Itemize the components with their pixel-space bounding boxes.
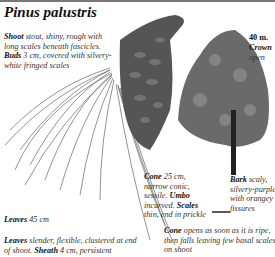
crown-note: Crownopen bbox=[249, 43, 275, 62]
shoot-buds-note: Shoot stout, shiny, rough with long scal… bbox=[4, 32, 114, 70]
cone-note: Cone 25 cm, narrow conic, sessile. Umbo … bbox=[144, 172, 206, 220]
height-note: 40 m. bbox=[249, 33, 268, 43]
cone-opening-note: Cone opens as soon as it is ripe, then f… bbox=[164, 226, 275, 255]
cone-illustration bbox=[120, 15, 184, 150]
bark-note: Bark scaly, silvery-purple with orangey … bbox=[230, 175, 275, 213]
leaves-description: Leaves slender, flexible, clustered at e… bbox=[4, 236, 144, 255]
species-title: Pinus palustris bbox=[4, 4, 97, 21]
leaves-size-note: Leaves 45 cm bbox=[4, 215, 49, 225]
